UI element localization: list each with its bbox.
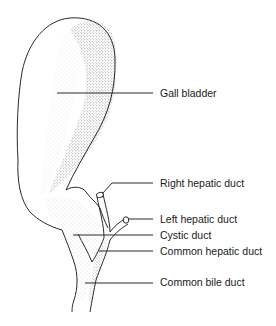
label-left-hepatic-duct: Left hepatic duct xyxy=(160,213,237,225)
label-common-hepatic-duct: Common hepatic duct xyxy=(160,245,262,257)
label-right-hepatic-duct: Right hepatic duct xyxy=(160,177,244,189)
gall-bladder-shape xyxy=(17,18,116,312)
leader-right-hepatic-duct xyxy=(102,183,112,194)
label-common-bile-duct: Common bile duct xyxy=(160,276,245,288)
label-gall-bladder: Gall bladder xyxy=(160,87,217,99)
label-cystic-duct: Cystic duct xyxy=(160,229,211,241)
gall-bladder-diagram: Gall bladder Right hepatic duct Left hep… xyxy=(0,0,276,326)
